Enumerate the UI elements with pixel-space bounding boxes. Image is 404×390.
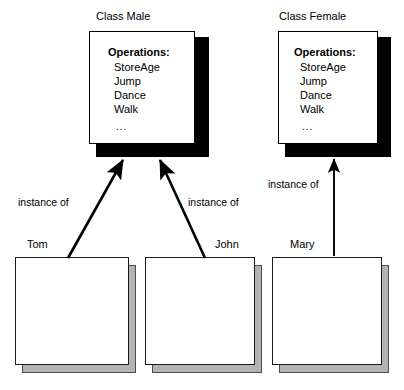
class-male-operations-ellipsis: ... — [108, 120, 170, 134]
class-female-operation: StoreAge — [294, 60, 356, 74]
class-male-operation: StoreAge — [108, 60, 170, 74]
class-female-operations: Operations: StoreAge Jump Dance Walk ... — [294, 45, 356, 134]
class-female-operation: Walk — [294, 102, 356, 116]
relation-label-mary-female: instance of — [268, 178, 319, 191]
instance-tom-box[interactable] — [15, 257, 129, 365]
instance-john-box[interactable] — [145, 257, 255, 365]
class-male-operations-heading: Operations: — [108, 45, 170, 59]
class-female-operation: Dance — [294, 88, 356, 102]
class-female-operations-ellipsis: ... — [294, 120, 356, 134]
instance-mary-box[interactable] — [272, 257, 382, 365]
class-female-operations-heading: Operations: — [294, 45, 356, 59]
class-female-box[interactable]: Operations: StoreAge Jump Dance Walk ... — [278, 31, 378, 144]
class-male-operation: Dance — [108, 88, 170, 102]
class-female-title: Class Female — [279, 10, 346, 23]
instance-tom-title: Tom — [27, 238, 48, 251]
instance-mary-title: Mary — [290, 238, 314, 251]
relation-label-john-male: instance of — [188, 196, 239, 209]
arrow-tom-to-male — [68, 160, 123, 258]
class-male-operation: Walk — [108, 102, 170, 116]
class-male-title: Class Male — [96, 10, 150, 23]
diagram-canvas: Class Male Operations: StoreAge Jump Dan… — [0, 0, 404, 390]
class-female-operation: Jump — [294, 74, 356, 88]
class-male-box[interactable]: Operations: StoreAge Jump Dance Walk ... — [89, 31, 195, 144]
class-male-operation: Jump — [108, 74, 170, 88]
arrow-john-to-male — [160, 160, 205, 258]
instance-john-title: John — [215, 238, 239, 251]
relation-label-tom-male: instance of — [18, 196, 69, 209]
class-male-operations: Operations: StoreAge Jump Dance Walk ... — [108, 45, 170, 134]
